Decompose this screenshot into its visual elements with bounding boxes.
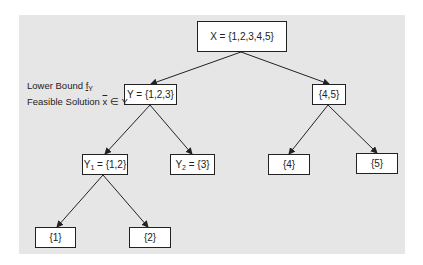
edge-Y-Y2	[150, 105, 192, 154]
node-1: {1}	[35, 227, 76, 248]
edge-root-45	[241, 52, 329, 84]
edge-45-5	[328, 105, 377, 153]
node-Y1: Y1 = {1,2}	[82, 154, 128, 175]
edge-Y-Y1	[105, 105, 150, 154]
node-Y2: Y2 = {3}	[170, 154, 215, 175]
feasible-solution-annotation: Feasible Solution x ∈ Y	[27, 96, 128, 107]
edge-Y1-1	[57, 175, 103, 227]
node-root: X = {1,2,3,4,5}	[197, 21, 287, 52]
node-Y1-label: Y1 = {1,2}	[84, 159, 127, 171]
node-45: {4,5}	[312, 84, 346, 105]
node-root-label: X = {1,2,3,4,5}	[210, 31, 274, 42]
node-4-label: {4}	[283, 159, 295, 170]
edge-45-4	[289, 105, 328, 154]
node-5-label: {5}	[371, 158, 383, 169]
node-Y: Y = {1,2,3}	[124, 84, 177, 105]
edge-Y1-2	[103, 175, 148, 227]
edge-root-Y	[151, 52, 241, 84]
node-5: {5}	[356, 153, 398, 174]
lower-bound-annotation: Lower Bound fY	[27, 80, 93, 92]
node-Y-label: Y = {1,2,3}	[127, 89, 174, 100]
node-45-label: {4,5}	[319, 89, 340, 100]
node-2: {2}	[129, 227, 171, 248]
node-1-label: {1}	[49, 232, 61, 243]
node-4: {4}	[268, 154, 310, 175]
node-Y2-label: Y2 = {3}	[175, 159, 209, 171]
node-2-label: {2}	[144, 232, 156, 243]
